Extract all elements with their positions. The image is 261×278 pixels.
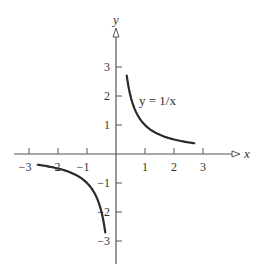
- x-axis-label: x: [243, 146, 250, 161]
- y-tick-label: 3: [104, 60, 110, 74]
- axes: [14, 28, 240, 264]
- y-axis-arrow-icon: [113, 28, 119, 37]
- curve-negative-branch: [38, 165, 106, 233]
- hyperbola-chart: −3−2−1123−3−2−1123 x y y = 1/x: [0, 0, 261, 278]
- y-tick-label: 2: [104, 89, 110, 103]
- x-tick-label: 3: [200, 160, 206, 174]
- y-tick-label: −3: [97, 234, 110, 248]
- equation-annotation: y = 1/x: [139, 93, 176, 108]
- x-tick-label: −1: [77, 160, 90, 174]
- y-tick-label: −1: [97, 176, 110, 190]
- y-axis-label: y: [111, 12, 119, 27]
- x-tick-label: 2: [171, 160, 177, 174]
- x-tick-label: 1: [142, 160, 148, 174]
- x-tick-label: −3: [19, 160, 32, 174]
- y-tick-label: 1: [104, 118, 110, 132]
- curve-positive-branch: [127, 76, 195, 144]
- x-axis-arrow-icon: [232, 151, 240, 157]
